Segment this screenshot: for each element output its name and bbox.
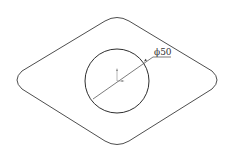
cad-drawing-canvas: ϕ50 (0, 0, 230, 155)
diameter-dimension[interactable]: ϕ50 (93, 47, 172, 99)
diameter-label: ϕ50 (154, 47, 172, 57)
